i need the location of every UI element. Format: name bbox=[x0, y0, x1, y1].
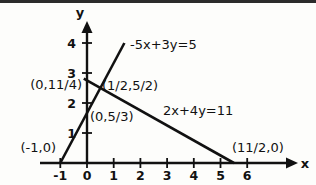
x-tick-label-4: 4 bbox=[189, 168, 198, 183]
y-tick-label-4: 4 bbox=[67, 36, 76, 51]
equation-label-line2: 2x+4y=11 bbox=[163, 103, 233, 118]
y-tick-label-2: 2 bbox=[67, 96, 76, 111]
y-axis-label: y bbox=[76, 5, 85, 20]
y-tick-label-1: 1 bbox=[67, 126, 76, 141]
x-tick-label-6: 6 bbox=[243, 168, 252, 183]
point-label--1-0: (-1,0) bbox=[20, 140, 56, 155]
x-tick-label-5: 5 bbox=[216, 168, 225, 183]
x-tick-label-0: 0 bbox=[83, 168, 92, 183]
x-axis-label: x bbox=[301, 156, 310, 171]
point-label-half-5-2: (1/2,5/2) bbox=[102, 78, 158, 93]
x-tick-label-2: 2 bbox=[136, 168, 145, 183]
point-label-0-5-3: (0,5/3) bbox=[90, 109, 133, 124]
x-tick-label--1: -1 bbox=[53, 168, 67, 183]
point-label-11-2-0: (11/2,0) bbox=[232, 140, 284, 155]
point-label-0-11-4: (0,11/4) bbox=[30, 77, 82, 92]
x-tick-label-1: 1 bbox=[109, 168, 118, 183]
x-axis-arrowhead bbox=[286, 158, 298, 169]
graph-figure: y x -1 0 1 2 3 4 5 6 1 2 3 4 -5x+3y=5 2x… bbox=[0, 0, 316, 185]
y-axis-arrowhead bbox=[82, 21, 93, 33]
equation-label-line1: -5x+3y=5 bbox=[130, 37, 197, 52]
coordinate-plane: y x -1 0 1 2 3 4 5 6 1 2 3 4 -5x+3y=5 2x… bbox=[0, 0, 316, 185]
x-tick-label-3: 3 bbox=[163, 168, 172, 183]
